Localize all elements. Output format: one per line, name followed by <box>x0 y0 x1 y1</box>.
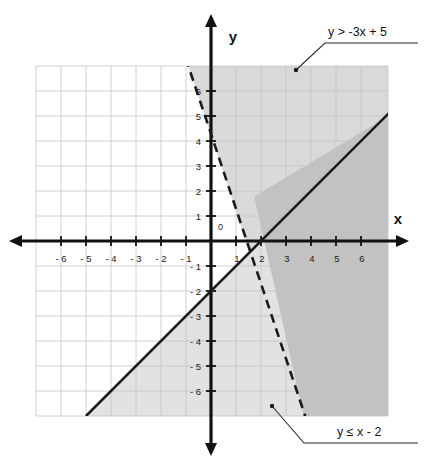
y-axis-label: y <box>229 28 238 45</box>
x-tick-label: 1 <box>234 253 239 264</box>
y-axis-arrow-down <box>205 443 217 456</box>
x-tick-label: - 6 <box>55 253 66 264</box>
y-tick-label: - 4 <box>190 336 201 347</box>
callout-dot-top <box>294 68 298 72</box>
y-tick-label: - 2 <box>190 286 201 297</box>
inequality-label-top: y > -3x + 5 <box>328 25 387 39</box>
x-axis-label: x <box>394 210 403 227</box>
coordinate-graph: - 6 - 5 - 4 - 3 - 2 - 1 1 2 3 4 5 6 6 5 … <box>0 0 426 467</box>
y-tick-label: 5 <box>196 111 201 122</box>
y-tick-label: - 6 <box>190 386 201 397</box>
x-tick-label: - 3 <box>130 253 141 264</box>
x-tick-label: 5 <box>334 253 339 264</box>
y-axis-arrow-up <box>205 14 217 27</box>
y-tick-label: 4 <box>196 136 201 147</box>
x-tick-label: - 2 <box>155 253 166 264</box>
x-tick-label: - 5 <box>80 253 91 264</box>
origin-label: 0 <box>218 222 223 232</box>
callout-dot-bottom <box>270 404 274 408</box>
y-tick-label: - 3 <box>190 311 201 322</box>
x-tick-label: - 4 <box>105 253 116 264</box>
y-tick-label: 6 <box>196 86 201 97</box>
y-tick-label: 1 <box>196 211 201 222</box>
x-tick-label: 2 <box>259 253 264 264</box>
graph-screenshot: - 6 - 5 - 4 - 3 - 2 - 1 1 2 3 4 5 6 6 5 … <box>0 0 426 467</box>
y-tick-label: - 1 <box>190 261 201 272</box>
y-tick-label: - 5 <box>190 361 201 372</box>
x-tick-label: 3 <box>284 253 289 264</box>
y-tick-label: 2 <box>196 186 201 197</box>
x-axis-arrow-right <box>396 235 409 247</box>
x-tick-label: 4 <box>309 253 314 264</box>
y-tick-label: 3 <box>196 161 201 172</box>
x-tick-label: 6 <box>359 253 364 264</box>
inequality-label-bottom: y ≤ x - 2 <box>337 425 381 439</box>
x-axis-arrow-left <box>9 235 22 247</box>
